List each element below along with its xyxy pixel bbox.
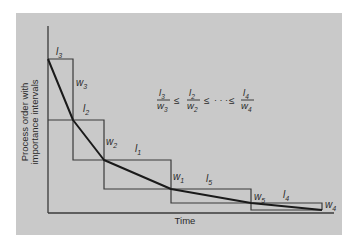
y-axis-label: Process order with importance intervals <box>19 79 40 164</box>
x-axis-label: Time <box>175 215 196 226</box>
figure-panel <box>16 13 342 235</box>
ellipsis: · · · <box>214 95 228 105</box>
y-axis-label-line2: importance intervals <box>29 79 40 164</box>
leq-symbol-1: ≤ <box>174 95 180 106</box>
leq-symbol-2: ≤ <box>204 95 210 106</box>
scheduling-figure: Process order with importance intervals … <box>0 0 356 247</box>
figure-canvas: Process order with importance intervals … <box>0 0 356 247</box>
leq-symbol-3: ≤ <box>229 95 235 106</box>
